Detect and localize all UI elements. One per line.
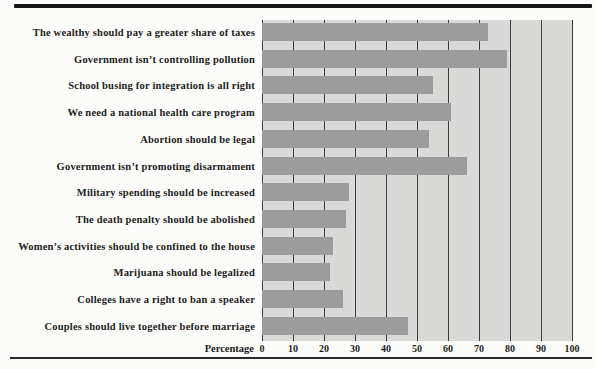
category-label-9: Women’s activities should be confined to… <box>18 240 255 251</box>
top-horizontal-rule <box>14 4 592 8</box>
category-label-11: Colleges have a right to ban a speaker <box>77 294 255 305</box>
bar-2 <box>262 50 507 68</box>
gridline-100 <box>572 20 573 341</box>
gridline-60 <box>448 20 449 341</box>
x-tick-label-90: 90 <box>536 343 546 354</box>
x-tick-label-0: 0 <box>260 343 265 354</box>
category-labels: The wealthy should pay a greater share o… <box>0 20 255 341</box>
bar-6 <box>262 157 467 175</box>
x-tick-label-80: 80 <box>505 343 515 354</box>
bar-8 <box>262 210 346 228</box>
x-tick-label-10: 10 <box>288 343 298 354</box>
bar-1 <box>262 23 488 41</box>
category-label-7: Military spending should be increased <box>77 187 255 198</box>
x-tick-label-100: 100 <box>565 343 580 354</box>
bar-9 <box>262 237 333 255</box>
bar-4 <box>262 103 451 121</box>
bottom-horizontal-rule <box>10 357 592 359</box>
x-tick-label-60: 60 <box>443 343 453 354</box>
category-label-6: Government isn’t promoting disarmament <box>57 160 255 171</box>
category-label-10: Marijuana should be legalized <box>114 267 255 278</box>
bar-12 <box>262 317 408 335</box>
x-axis-title: Percentage <box>205 343 254 354</box>
bar-3 <box>262 76 433 94</box>
gridline-90 <box>541 20 542 341</box>
x-tick-label-40: 40 <box>381 343 391 354</box>
x-tick-label-50: 50 <box>412 343 422 354</box>
category-label-12: Couples should live together before marr… <box>44 320 255 331</box>
gridline-80 <box>510 20 511 341</box>
x-tick-label-30: 30 <box>350 343 360 354</box>
gridline-30 <box>355 20 356 341</box>
plot-area <box>262 20 572 341</box>
category-label-4: We need a national health care program <box>68 107 255 118</box>
category-label-2: Government isn’t controlling pollution <box>74 53 255 64</box>
x-axis: 0102030405060708090100 <box>262 343 582 357</box>
x-tick-label-20: 20 <box>319 343 329 354</box>
x-tick-label-70: 70 <box>474 343 484 354</box>
bar-5 <box>262 130 429 148</box>
gridline-50 <box>417 20 418 341</box>
bar-10 <box>262 263 330 281</box>
category-label-3: School busing for integration is all rig… <box>68 80 255 91</box>
category-label-8: The death penalty should be abolished <box>76 213 255 224</box>
bar-11 <box>262 290 343 308</box>
bar-7 <box>262 183 349 201</box>
gridline-70 <box>479 20 480 341</box>
category-label-5: Abortion should be legal <box>140 133 255 144</box>
category-label-1: The wealthy should pay a greater share o… <box>33 27 255 38</box>
gridline-40 <box>386 20 387 341</box>
bar-chart-figure: The wealthy should pay a greater share o… <box>0 0 595 369</box>
